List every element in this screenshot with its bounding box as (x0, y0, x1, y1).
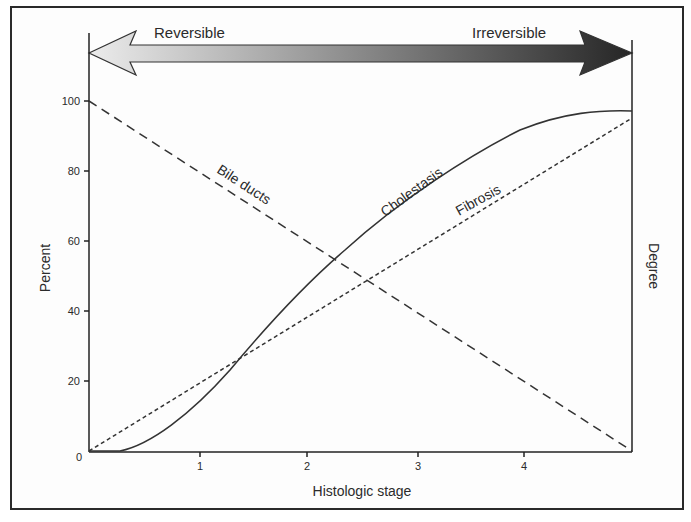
svg-text:60: 60 (68, 235, 80, 247)
svg-text:100: 100 (62, 95, 80, 107)
x-tick-labels: 1 2 3 4 (197, 460, 527, 472)
chart: Reversible Irreversible 100 80 60 40 20 … (0, 0, 691, 522)
irreversible-label: Irreversible (472, 24, 546, 41)
cholestasis-curve (89, 111, 632, 451)
y-axis-label: Percent (37, 244, 53, 292)
svg-text:4: 4 (521, 460, 527, 472)
axes (84, 33, 632, 457)
svg-text:3: 3 (415, 460, 421, 472)
svg-text:80: 80 (68, 165, 80, 177)
y2-axis-label: Degree (646, 243, 662, 289)
reversible-label: Reversible (154, 24, 225, 41)
svg-text:1: 1 (197, 460, 203, 472)
svg-text:0: 0 (76, 451, 82, 463)
svg-text:20: 20 (68, 375, 80, 387)
svg-text:2: 2 (304, 460, 310, 472)
x-axis-label: Histologic stage (313, 483, 412, 499)
fibrosis-line (89, 118, 632, 451)
svg-text:40: 40 (68, 305, 80, 317)
y-tick-labels: 100 80 60 40 20 0 (62, 95, 82, 463)
cholestasis-label: Cholestasis (377, 164, 445, 219)
bile-ducts-line (89, 101, 632, 451)
